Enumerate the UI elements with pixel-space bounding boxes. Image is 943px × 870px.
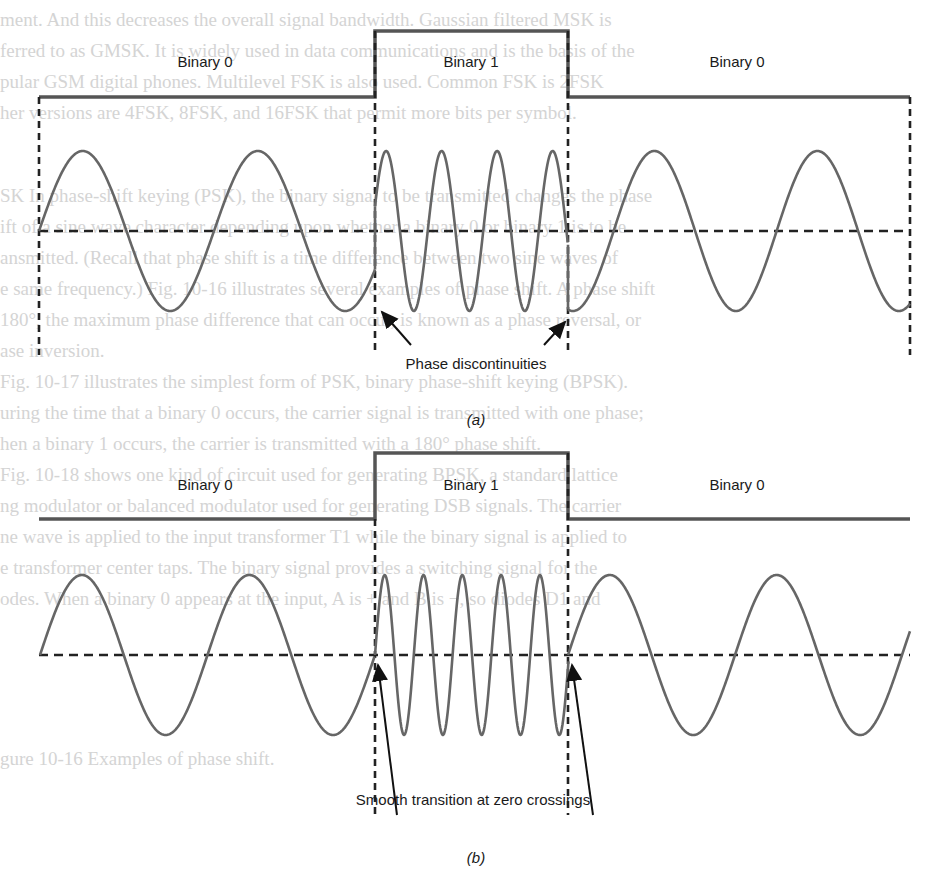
panel-b-smooth-transition — [39, 453, 910, 815]
carrier-sine-wave — [568, 575, 910, 735]
pointer-arrow-icon — [544, 322, 565, 345]
binary-label-a-2: Binary 0 — [709, 53, 764, 70]
binary-label-a-0: Binary 0 — [177, 53, 232, 70]
carrier-sine-wave — [568, 151, 910, 311]
binary-label-b-1: Binary 1 — [443, 476, 498, 493]
binary-label-a-1: Binary 1 — [443, 53, 498, 70]
panel-a-phase-discontinuities — [39, 31, 910, 355]
phase-discontinuities-annotation: Phase discontinuities — [406, 355, 547, 372]
smooth-transition-annotation: Smooth transition at zero crossings — [356, 791, 590, 808]
fsk-phase-diagram — [0, 0, 943, 870]
pointer-arrow-icon — [382, 312, 411, 345]
binary-label-b-0: Binary 0 — [177, 476, 232, 493]
panel-a-caption: (a) — [467, 411, 485, 428]
binary-label-b-2: Binary 0 — [709, 476, 764, 493]
panel-b-caption: (b) — [467, 849, 485, 866]
